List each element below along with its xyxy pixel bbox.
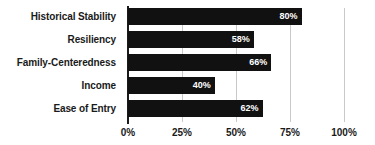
bar-income: 40%: [128, 77, 215, 94]
bar-value-label: 58%: [232, 31, 250, 48]
category-label: Ease of Entry: [53, 100, 116, 117]
bar-chart: Historical Stability Resiliency Family-C…: [0, 0, 375, 145]
tick-label-25: 25%: [172, 126, 192, 140]
tick-label-0: 0%: [121, 126, 135, 140]
category-label: Family-Centeredness: [17, 54, 116, 71]
bar-historical-stability: 80%: [128, 8, 302, 25]
tick-label-100: 100%: [331, 126, 357, 140]
plot-area: 80% 58% 66% 40% 62%: [128, 8, 345, 122]
category-label: Income: [82, 77, 116, 94]
bar-value-label: 62%: [241, 100, 259, 117]
gridline-75: [290, 8, 291, 122]
bar-ease-of-entry: 62%: [128, 100, 263, 117]
value-axis-ticks: 0% 25% 50% 75% 100%: [0, 126, 375, 142]
bar-family-centeredness: 66%: [128, 54, 271, 71]
bar-value-label: 80%: [280, 8, 298, 25]
category-label: Historical Stability: [31, 8, 116, 25]
category-axis-labels: Historical Stability Resiliency Family-C…: [0, 8, 122, 122]
bar-resiliency: 58%: [128, 31, 254, 48]
bar-value-label: 66%: [249, 54, 267, 71]
tick-label-50: 50%: [226, 126, 246, 140]
bar-value-label: 40%: [193, 77, 211, 94]
category-label: Resiliency: [68, 31, 116, 48]
tick-label-75: 75%: [280, 126, 300, 140]
gridline-100: [344, 8, 345, 122]
